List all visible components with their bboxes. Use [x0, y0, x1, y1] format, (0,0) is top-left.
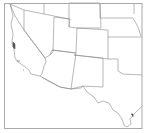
map-container [0, 0, 146, 133]
map-svg [0, 0, 146, 133]
map-background [0, 0, 146, 133]
